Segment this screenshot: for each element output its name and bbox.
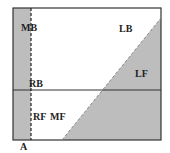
label-lb: LB: [119, 23, 133, 34]
label-rf: RF: [33, 111, 46, 122]
label-lf: LF: [135, 68, 148, 79]
label-mb: MB: [21, 22, 37, 33]
label-mf: MF: [50, 111, 66, 122]
label-rb: RB: [29, 78, 43, 89]
label-a: A: [20, 141, 28, 152]
diagram-canvas: MB LB LF RB RF MF A: [0, 0, 170, 153]
